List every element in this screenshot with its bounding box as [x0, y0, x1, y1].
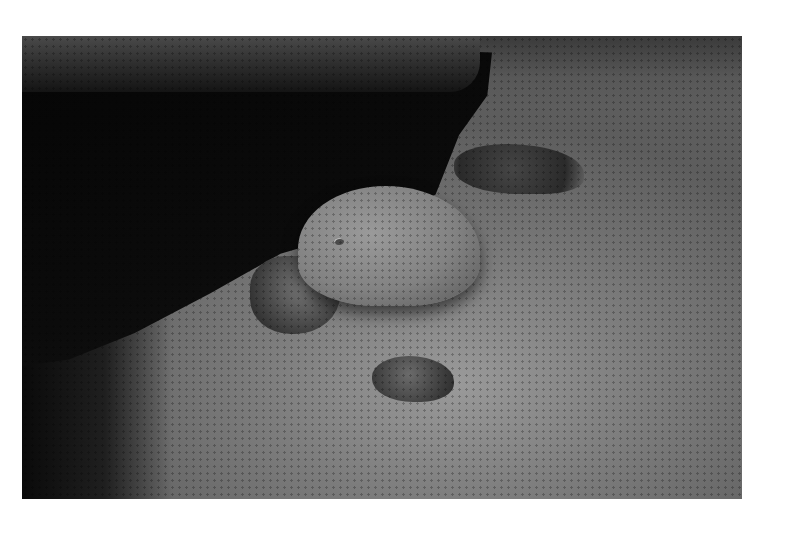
- underwater-photo: [22, 36, 742, 499]
- film-grain: [22, 36, 742, 499]
